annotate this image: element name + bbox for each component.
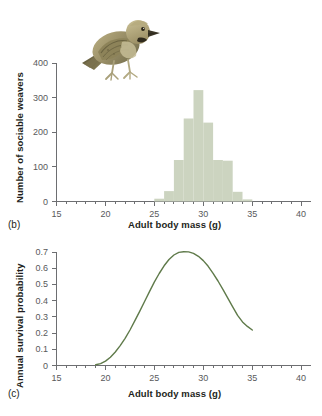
table-row (223, 161, 233, 202)
panel-b-bars (154, 90, 252, 201)
table-row (243, 199, 253, 201)
panel-b-y-tick-200: 200 (33, 127, 48, 137)
panel-c-survival-curve (96, 252, 253, 365)
panel-b-x-tick-20: 20 (100, 209, 110, 219)
figure-container: Number of sociable weavers 0 100 200 300… (0, 0, 322, 416)
panel-c-x-axis-title: Adult body mass (g) (128, 388, 221, 399)
panel-b-x-ticks: 15 20 25 30 35 40 (51, 202, 306, 220)
panel-c-y-tick-0-5: 0.5 (35, 279, 48, 289)
panel-c-y-tick-0-4: 0.4 (35, 296, 48, 306)
panel-c-y-tick-0-7: 0.7 (35, 247, 48, 257)
panel-b-x-tick-25: 25 (149, 209, 159, 219)
table-row (233, 192, 243, 202)
panel-b-x-tick-30: 30 (198, 209, 208, 219)
panel-c-y-tick-0-2: 0.2 (35, 328, 48, 338)
panel-b-y-tick-0: 0 (43, 197, 48, 207)
panel-c-x-tick-20: 20 (100, 373, 110, 383)
panel-c-x-tick-35: 35 (247, 373, 257, 383)
sociable-weaver-bird-illustration (78, 8, 164, 86)
panel-c-letter: (c) (8, 388, 20, 399)
panel-c-y-ticks: 0 0.1 0.2 0.3 0.4 0.5 0.6 0.7 (35, 247, 56, 371)
panel-c-y-tick-0-1: 0.1 (35, 344, 48, 354)
panel-b-x-tick-40: 40 (296, 209, 306, 219)
panel-c-x-ticks: 15 20 25 30 35 40 (51, 366, 306, 384)
panel-b-y-tick-400: 400 (33, 58, 48, 68)
table-row (184, 119, 194, 202)
table-row (203, 123, 213, 202)
panel-b-y-ticks: 0 100 200 300 400 (33, 58, 57, 207)
panel-c-x-tick-25: 25 (149, 373, 159, 383)
panel-b-y-tick-300: 300 (33, 93, 48, 103)
panel-b: Number of sociable weavers 0 100 200 300… (0, 0, 322, 228)
panel-c-x-tick-15: 15 (51, 373, 61, 383)
panel-c: Annual survival probability 0 0.1 0.2 0.… (0, 228, 322, 416)
table-row (194, 90, 204, 201)
panel-c-y-tick-0-3: 0.3 (35, 312, 48, 322)
panel-c-x-tick-40: 40 (296, 373, 306, 383)
panel-b-y-tick-100: 100 (33, 162, 48, 172)
panel-b-x-tick-15: 15 (51, 209, 61, 219)
table-row (174, 160, 184, 202)
table-row (213, 160, 223, 202)
panel-c-x-tick-30: 30 (198, 373, 208, 383)
table-row (164, 191, 174, 201)
panel-c-y-tick-0-6: 0.6 (35, 263, 48, 273)
panel-b-x-tick-35: 35 (247, 209, 257, 219)
panel-c-y-tick-0: 0 (43, 361, 48, 371)
panel-b-y-axis-title: Number of sociable weavers (14, 72, 25, 203)
table-row (154, 199, 164, 202)
panel-c-y-axis-title: Annual survival probability (14, 263, 25, 388)
